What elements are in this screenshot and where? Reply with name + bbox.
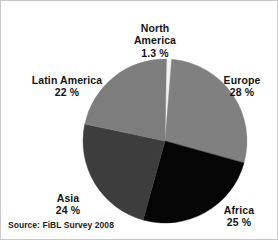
- pie-chart-canvas: [1, 1, 278, 240]
- pie-slice-group: [83, 59, 247, 223]
- pie-chart-figure: North America 1.3 % Europe 28 % Latin Am…: [0, 0, 278, 240]
- pie-svg: [1, 1, 278, 240]
- source-caption: Source: FiBL Survey 2008: [8, 220, 114, 231]
